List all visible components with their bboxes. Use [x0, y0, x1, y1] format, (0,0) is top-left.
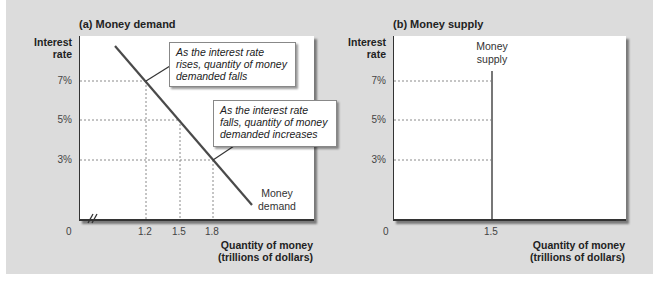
callout-1-leader — [146, 66, 170, 81]
callout-rate-rises: As the interest rate rises, quantity of … — [169, 42, 296, 87]
callout-2-line1: As the interest rate — [220, 104, 330, 116]
callout-2-leader — [213, 146, 234, 160]
callout-2-line3: demanded increases — [220, 128, 330, 140]
panel-a-guide-lines — [80, 81, 213, 219]
panel-b-guide-lines — [394, 81, 492, 160]
callout-2-line2: falls, quantity of money — [220, 116, 330, 128]
callout-1-line3: demanded falls — [176, 70, 289, 82]
axis-break-icon — [88, 214, 97, 223]
callout-rate-falls: As the interest rate falls, quantity of … — [213, 100, 337, 147]
callout-1-line1: As the interest rate — [176, 46, 289, 58]
callout-1-line2: rises, quantity of money — [176, 58, 289, 70]
